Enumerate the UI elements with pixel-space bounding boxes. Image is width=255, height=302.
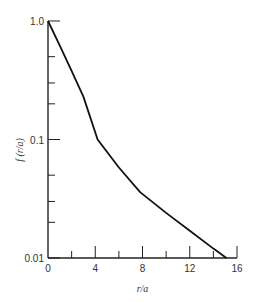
x-tick-label: 12 — [184, 263, 196, 274]
x-tick-label: 8 — [140, 263, 146, 274]
y-tick-label: 0.01 — [25, 253, 45, 264]
y-tick-label: 1.0 — [30, 16, 44, 27]
y-axis-label: f (r/a) — [14, 138, 26, 162]
y-tick-label: 0.1 — [30, 135, 44, 146]
chart: 04812161.00.10.01r/af (r/a) — [0, 0, 255, 302]
data-curve — [48, 21, 226, 258]
x-tick-label: 0 — [45, 263, 51, 274]
x-tick-label: 16 — [231, 263, 243, 274]
x-tick-label: 4 — [92, 263, 98, 274]
x-axis-label: r/a — [137, 283, 149, 294]
